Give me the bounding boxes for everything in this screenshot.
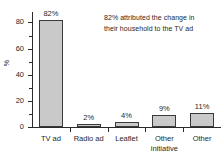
y-tick-label-20: 20 bbox=[6, 96, 24, 105]
x-tick-3 bbox=[145, 128, 146, 132]
y-tick-40 bbox=[28, 75, 32, 76]
bar-chart: 82% attributed the change in their house… bbox=[0, 0, 224, 161]
category-label-3-line-1: initiative bbox=[136, 144, 192, 154]
y-minor-tick-10 bbox=[29, 114, 32, 115]
y-tick-label-40: 40 bbox=[6, 70, 24, 79]
bar-3 bbox=[152, 115, 176, 127]
x-tick-1 bbox=[70, 128, 71, 132]
bar-0 bbox=[39, 20, 63, 127]
bar-value-label-3: 9% bbox=[144, 104, 184, 113]
y-tick-20 bbox=[28, 101, 32, 102]
y-minor-tick-30 bbox=[29, 88, 32, 89]
x-tick-4 bbox=[183, 128, 184, 132]
category-label-4: Other bbox=[174, 134, 224, 144]
chart-annotation: 82% attributed the change in their house… bbox=[104, 13, 222, 34]
annotation-line-2: their household to the TV ad bbox=[104, 24, 222, 35]
x-axis-line bbox=[32, 127, 221, 128]
annotation-line-1: 82% attributed the change in bbox=[104, 13, 222, 24]
bar-2 bbox=[115, 122, 139, 127]
y-tick-0 bbox=[28, 127, 32, 128]
bar-value-label-2: 4% bbox=[107, 111, 147, 120]
y-axis-line bbox=[32, 12, 33, 128]
bar-4 bbox=[190, 113, 214, 127]
category-label-4-line-0: Other bbox=[174, 134, 224, 144]
y-minor-tick-50 bbox=[29, 62, 32, 63]
x-tick-2 bbox=[108, 128, 109, 132]
y-tick-60 bbox=[28, 49, 32, 50]
bar-value-label-0: 82% bbox=[31, 9, 71, 18]
y-tick-80 bbox=[28, 22, 32, 23]
bar-value-label-1: 2% bbox=[69, 113, 109, 122]
bar-value-label-4: 11% bbox=[182, 102, 222, 111]
y-minor-tick-70 bbox=[29, 36, 32, 37]
y-tick-label-80: 80 bbox=[6, 17, 24, 26]
y-tick-label-0: 0 bbox=[6, 122, 24, 131]
y-tick-label-60: 60 bbox=[6, 44, 24, 53]
bar-1 bbox=[77, 124, 101, 127]
y-axis-label: % bbox=[0, 56, 14, 70]
